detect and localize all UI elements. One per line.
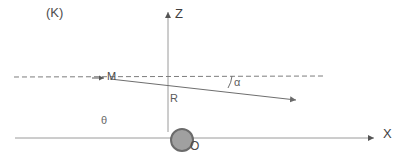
z-axis-label: Z: [175, 7, 183, 20]
dashed-reference-line: [14, 76, 325, 77]
alpha-angle-arc: [228, 76, 232, 88]
origin-label: O: [190, 140, 199, 152]
point-m-label: M: [107, 71, 116, 82]
physics-diagram-figure: (K) Z X M R α θ O: [0, 0, 408, 165]
diagram-canvas: [0, 0, 408, 165]
radius-label: R: [170, 93, 178, 104]
theta-angle-label: θ: [101, 115, 107, 126]
panel-label: (K): [46, 6, 63, 19]
deflected-ray-line: [110, 79, 296, 100]
x-axis-label: X: [383, 127, 392, 140]
alpha-angle-label: α: [234, 77, 240, 88]
